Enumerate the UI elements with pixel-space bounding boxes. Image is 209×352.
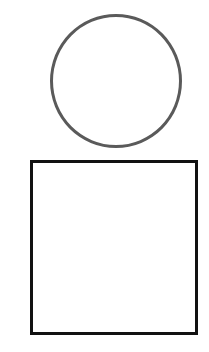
circle-shape — [50, 14, 182, 148]
square-shape — [30, 160, 198, 335]
diagram-canvas — [0, 0, 209, 352]
